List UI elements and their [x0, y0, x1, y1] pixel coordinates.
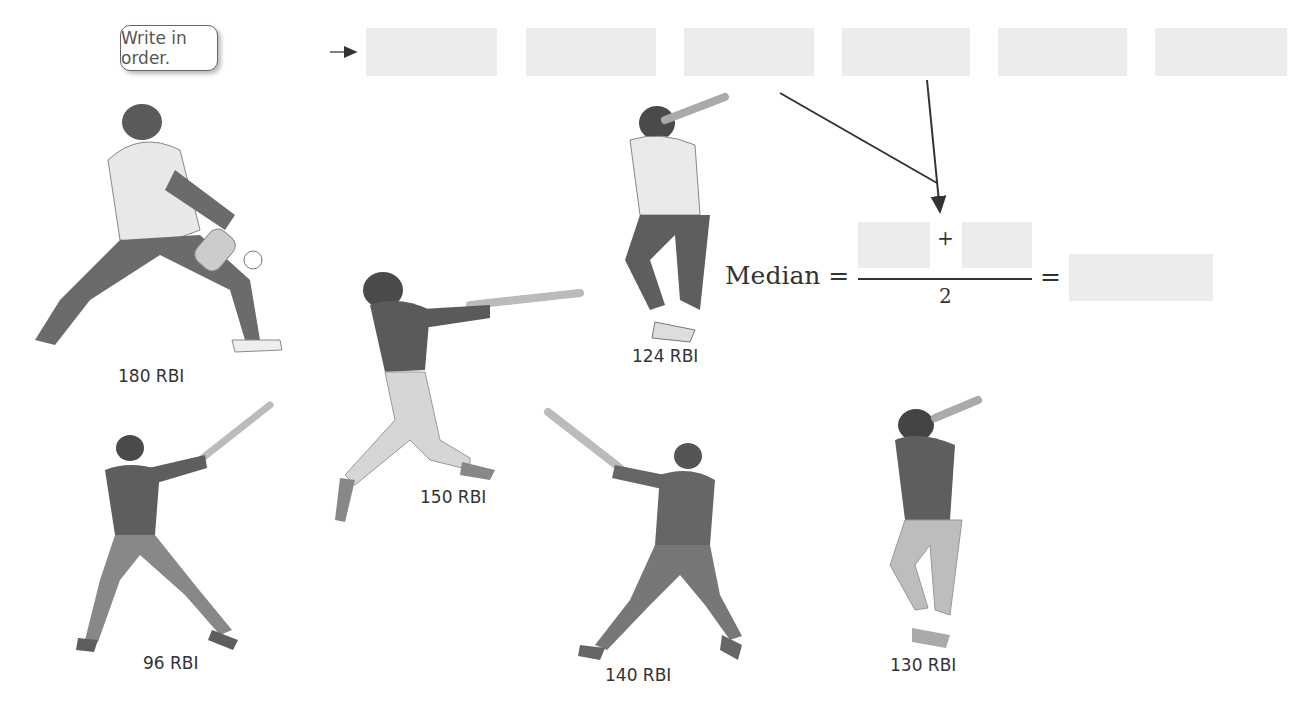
callout-text: Write in order.: [121, 28, 217, 68]
order-box-3[interactable]: [684, 28, 814, 76]
player-label-150: 150 RBI: [420, 487, 486, 507]
player-label-130: 130 RBI: [890, 655, 956, 675]
order-box-5[interactable]: [998, 28, 1127, 76]
player-label-180: 180 RBI: [118, 366, 184, 386]
player-label-124: 124 RBI: [632, 346, 698, 366]
player-label-140: 140 RBI: [605, 665, 671, 685]
numerator-box-b[interactable]: [962, 222, 1032, 268]
player-label-96: 96 RBI: [143, 653, 199, 673]
write-in-order-callout: Write in order.: [120, 25, 218, 71]
median-result-box[interactable]: [1069, 254, 1213, 301]
player-124-illustration: [625, 97, 725, 342]
player-150-illustration: [335, 272, 580, 522]
equals-sign: =: [828, 261, 849, 290]
plus-sign: +: [937, 226, 954, 250]
player-180-illustration: [35, 104, 282, 352]
player-130-illustration: [890, 400, 978, 648]
median-pointer-line: [780, 93, 937, 183]
numerator-box-a[interactable]: [858, 222, 930, 268]
median-pointer-arrow-icon: [927, 80, 940, 212]
median-label: Median =: [725, 261, 849, 290]
player-140-illustration: [548, 412, 742, 660]
fraction-bar: [858, 278, 1032, 280]
order-box-4[interactable]: [842, 28, 970, 76]
denominator: 2: [939, 284, 952, 308]
order-box-2[interactable]: [526, 28, 656, 76]
result-equals-sign: =: [1040, 262, 1061, 291]
order-box-6[interactable]: [1155, 28, 1287, 76]
player-96-illustration: [76, 405, 270, 652]
order-box-1[interactable]: [366, 28, 497, 76]
